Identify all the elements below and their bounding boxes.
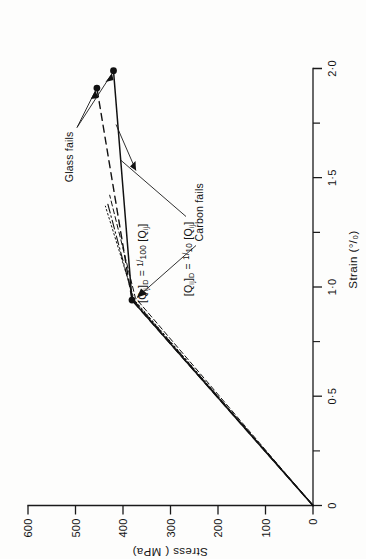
q10-sub-d: D	[187, 272, 196, 277]
annotation-q100: [Qij]D = 1/100 [Qij]	[116, 124, 150, 302]
q100-equals: =	[136, 266, 148, 279]
curve-q10-dashed	[97, 88, 313, 505]
rotated-figure-container: 0 100 200 300 400 500 600 Stress ( MPa)	[0, 0, 366, 559]
glass-fails-arrowhead-1	[106, 73, 114, 82]
q10-leader	[120, 159, 186, 216]
strain-tick-15: 1·5	[326, 169, 338, 186]
stress-tick-500: 500	[70, 518, 82, 537]
glass-fails-label: Glass fails	[63, 131, 75, 182]
strain-tick-10: 1·0	[326, 278, 338, 295]
curve-dotted	[105, 206, 313, 505]
stress-axis: 0 100 200 300 400 500 600 Stress ( MPa)	[22, 505, 319, 557]
stress-tick-300: 300	[165, 518, 177, 537]
stress-tick-600: 600	[22, 518, 34, 537]
q10-equals: =	[182, 259, 194, 272]
marker-carbon-fails	[129, 296, 136, 303]
q100-prefix: [Q	[136, 291, 148, 303]
q100-sub-d: D	[141, 279, 150, 284]
q100-numerator: 1	[135, 261, 145, 266]
annotation-q10: [Qij]D = 1/10 [Qij]	[120, 159, 196, 296]
marker-glass-fails-dashed	[94, 84, 101, 91]
q100-label: [Qij]D = 1/100 [Qij]	[135, 223, 150, 302]
stress-axis-title: Stress ( MPa)	[132, 545, 208, 557]
q100-tail: [Q	[136, 230, 148, 245]
figure-page: 0 100 200 300 400 500 600 Stress ( MPa)	[0, 0, 366, 559]
q10-numerator: 1	[181, 254, 191, 259]
marker-glass-fails-solid	[110, 67, 117, 74]
carbon-fails-label: Carbon fails	[193, 183, 205, 241]
q10-close: ]	[182, 221, 194, 224]
q100-denominator: 100	[138, 244, 148, 259]
stress-tick-200: 200	[212, 518, 224, 537]
q10-denominator: 10	[184, 242, 194, 252]
annotation-glass-fails: Glass fails	[63, 73, 114, 182]
q10-prefix: [Q	[182, 284, 194, 296]
strain-tick-05: 0·5	[326, 387, 338, 404]
stress-strain-chart: 0 100 200 300 400 500 600 Stress ( MPa)	[0, 0, 366, 559]
strain-tick-0: 0	[326, 502, 338, 508]
stress-tick-100: 100	[260, 518, 272, 537]
strain-tick-20: 2·0	[326, 60, 338, 77]
q10-tail: [Q	[182, 228, 194, 243]
q100-close: ]	[136, 223, 148, 226]
stress-tick-0: 0	[307, 518, 319, 524]
stress-tick-400: 400	[117, 518, 129, 537]
strain-axis: 0 0·5 1·0 1·5 2·0 Strain (°/₀)	[313, 60, 359, 508]
strain-axis-title: Strain (°/₀)	[347, 230, 359, 288]
plot-area: 0 100 200 300 400 500 600 Stress ( MPa)	[0, 0, 366, 559]
